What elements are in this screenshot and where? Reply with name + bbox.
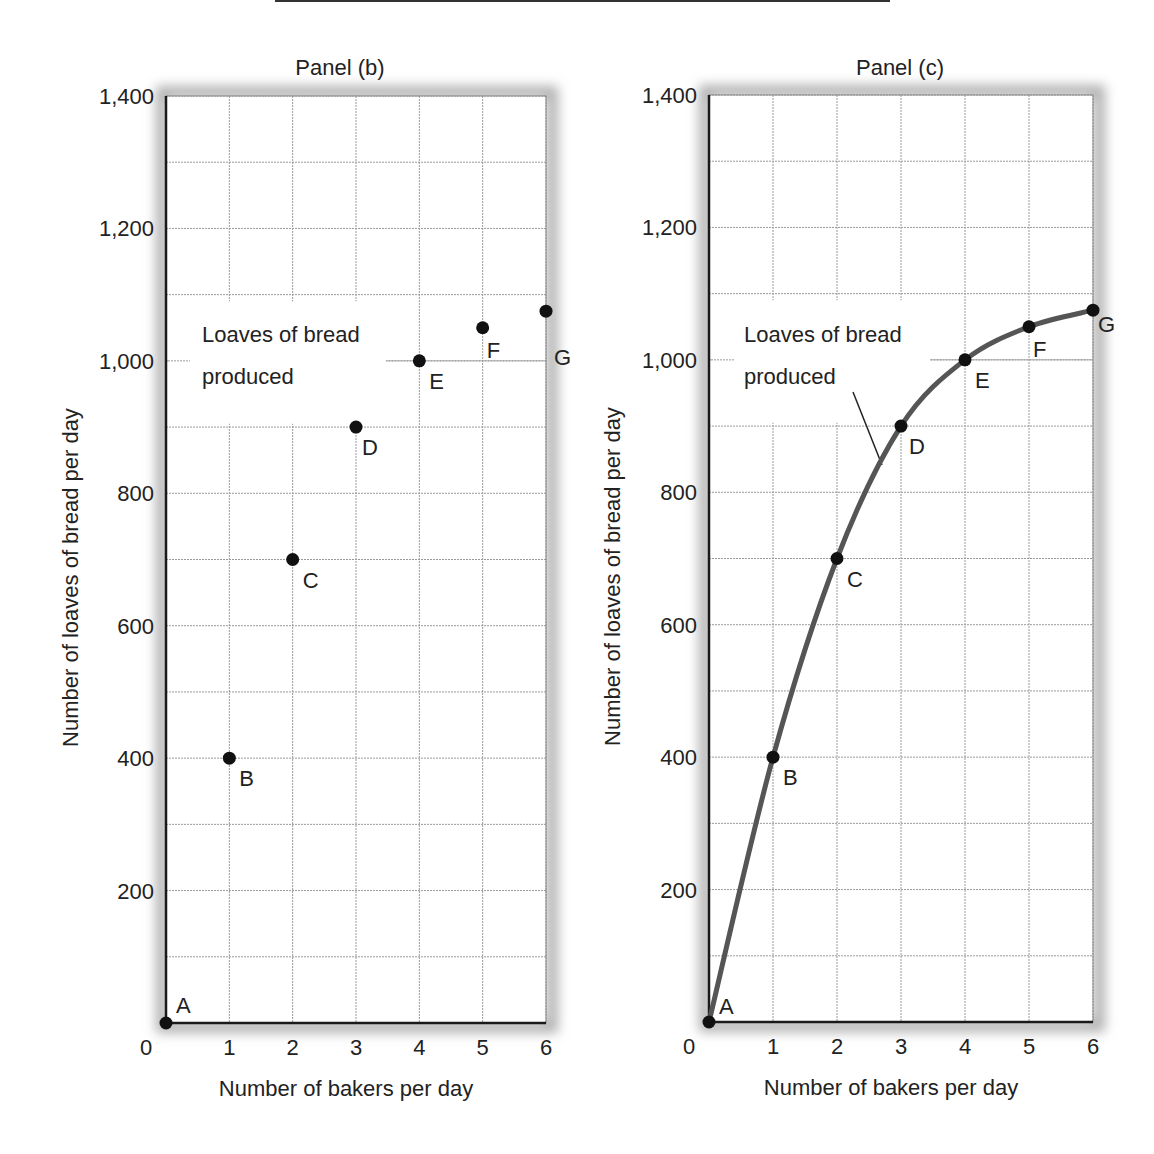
chart-canvas: 2004006008001,0001,2001,4000123456Panel … [0, 0, 1154, 1154]
point-label-d: D [362, 435, 378, 460]
x-tick-label: 4 [413, 1035, 425, 1060]
x-tick-label: 6 [540, 1035, 552, 1060]
y-tick-label: 200 [660, 878, 697, 903]
data-point-g [540, 305, 553, 318]
annotation-bg [169, 301, 386, 423]
x-tick-label: 0 [140, 1035, 152, 1060]
data-point-d [350, 421, 363, 434]
point-label-a: A [719, 994, 734, 1019]
y-tick-label: 600 [117, 614, 154, 639]
x-tick-label: 6 [1087, 1034, 1099, 1059]
data-point-a [160, 1017, 173, 1030]
data-point-a [703, 1016, 716, 1029]
annotation-line-2: produced [744, 364, 836, 389]
point-label-g: G [1098, 312, 1115, 337]
data-point-b [223, 752, 236, 765]
x-tick-label: 5 [1023, 1034, 1035, 1059]
x-tick-label: 2 [831, 1034, 843, 1059]
x-axis-title: Number of bakers per day [764, 1075, 1018, 1100]
panel-title: Panel (b) [295, 55, 384, 80]
y-tick-label: 600 [660, 613, 697, 638]
annotation-line-1: Loaves of bread [202, 322, 360, 347]
y-tick-label: 1,200 [99, 216, 154, 241]
y-tick-label: 1,200 [642, 215, 697, 240]
x-tick-label: 4 [959, 1034, 971, 1059]
x-tick-label: 0 [683, 1034, 695, 1059]
y-tick-label: 400 [117, 746, 154, 771]
x-axis-title: Number of bakers per day [219, 1076, 473, 1101]
panel-c: 2004006008001,0001,2001,4000123456Panel … [600, 55, 1115, 1100]
data-point-e [959, 353, 972, 366]
y-tick-label: 1,000 [99, 349, 154, 374]
x-tick-label: 2 [287, 1035, 299, 1060]
y-axis-title: Number of loaves of bread per day [58, 408, 83, 747]
panel-title: Panel (c) [856, 55, 944, 80]
y-tick-label: 400 [660, 745, 697, 770]
y-tick-label: 1,400 [642, 83, 697, 108]
data-point-f [1023, 320, 1036, 333]
point-label-b: B [239, 766, 254, 791]
point-label-e: E [975, 368, 990, 393]
y-tick-label: 1,400 [99, 84, 154, 109]
point-label-f: F [1033, 337, 1046, 362]
panel-b: 2004006008001,0001,2001,4000123456Panel … [58, 55, 571, 1101]
annotation-bg [712, 300, 930, 422]
x-tick-label: 1 [223, 1035, 235, 1060]
point-label-d: D [909, 434, 925, 459]
x-tick-label: 5 [477, 1035, 489, 1060]
point-label-a: A [176, 993, 191, 1018]
data-point-b [767, 751, 780, 764]
data-point-c [286, 553, 299, 566]
annotation-line-1: Loaves of bread [744, 322, 902, 347]
x-tick-label: 3 [350, 1035, 362, 1060]
point-label-g: G [554, 345, 571, 370]
y-tick-label: 800 [117, 481, 154, 506]
point-label-e: E [429, 369, 444, 394]
point-label-c: C [303, 568, 319, 593]
x-tick-label: 3 [895, 1034, 907, 1059]
y-tick-label: 800 [660, 480, 697, 505]
point-label-c: C [847, 567, 863, 592]
point-label-b: B [783, 765, 798, 790]
y-tick-label: 1,000 [642, 348, 697, 373]
y-axis-title: Number of loaves of bread per day [600, 407, 625, 746]
annotation-line-2: produced [202, 364, 294, 389]
data-point-d [895, 420, 908, 433]
x-tick-label: 1 [767, 1034, 779, 1059]
y-tick-label: 200 [117, 879, 154, 904]
data-point-f [476, 321, 489, 334]
point-label-f: F [487, 338, 500, 363]
data-point-e [413, 354, 426, 367]
data-point-c [831, 552, 844, 565]
